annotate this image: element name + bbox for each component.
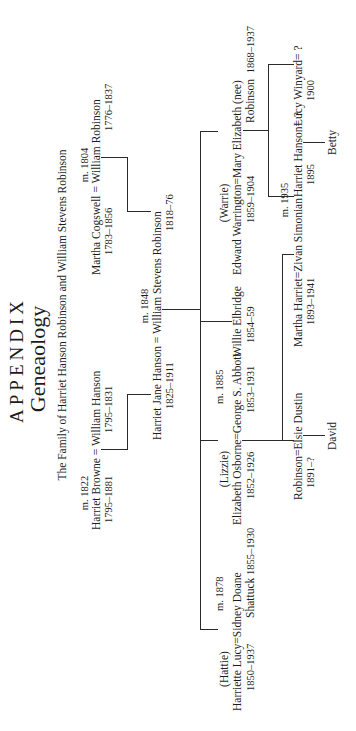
lucy-years: 1900 [305, 80, 317, 101]
betty: Betty [326, 130, 339, 155]
zivan-simonian: Zivan Simonian [292, 198, 304, 272]
william-robinson-years: 1776–1837 [103, 84, 115, 131]
warrie-descent-line [243, 130, 268, 131]
robinson-son-years: 1891–? [305, 457, 317, 488]
mary-elizabeth: Mary Elizabeth (nee) [231, 80, 243, 178]
hanson-connector-line [127, 395, 128, 450]
warrie-couple: Edward Warrington=Mary Elizabeth (nee) [231, 80, 244, 275]
william-hanson: William Hanson [90, 371, 102, 446]
edward-warrington: Edward Warrington [231, 184, 243, 275]
robinson-descent-line [101, 157, 127, 158]
warrie-nickname: (Warrie) [218, 184, 231, 223]
harriet-browne-years: 1795–1881 [103, 476, 115, 523]
sidney-doane: Sidney Doane [231, 572, 243, 637]
robinson-son: Robinson [292, 456, 304, 500]
lizzie-years: 1852–1926 [245, 452, 257, 499]
martha-marriage: m. 1935 [279, 183, 291, 217]
gen2-marriage: m. 1848 [139, 289, 151, 323]
elsie-dustin: Elsie Dustin [292, 393, 304, 450]
robinson-couple-gen4: Robinson=Elsie Dustin [292, 393, 305, 500]
harriet-jane-hanson: Harriet Jane Hanson [151, 346, 163, 440]
harriet-jane-years: 1825–1911 [164, 362, 176, 409]
genealogy-page: APPENDIX Geneaology The Family of Harrie… [0, 0, 356, 731]
robinson-to-william-line [127, 211, 151, 212]
robinson-descent-line [303, 435, 325, 436]
drop-willie [200, 321, 232, 322]
hattie-nickname: (Hattie) [218, 651, 231, 687]
family-caption: The Family of Harriet Hanson Robinson an… [56, 149, 68, 480]
hanson-to-harriet-line [127, 394, 151, 395]
hanson-descent-line [101, 449, 127, 450]
lizzie-nickname: (Lizzie) [218, 451, 231, 487]
drop-warrie [200, 131, 218, 132]
gen2-couple: Harriet Jane Hanson = William Stevens Ro… [151, 211, 164, 440]
william-hanson-years: 1795–1831 [103, 386, 115, 433]
hattie-couple: Harriette Lucy=Sidney Doane [231, 572, 244, 711]
elizabeth-osborne: Elizabeth Osborne [231, 440, 243, 525]
harriet-browne: Harriet Browne [90, 458, 102, 530]
george-abbott: George S. Abbott [231, 353, 243, 433]
warrie-children-bar [268, 64, 269, 197]
lizzie-children-bar [282, 255, 283, 441]
robinson-couple: Martha Cogswell = William Robinson [90, 99, 103, 275]
genealogy-subtitle: Geneaology [25, 306, 51, 412]
george-abbott-years: 1853–1931 [245, 366, 257, 413]
martha-couple: Martha Harriet=Zivan Simonian [292, 198, 305, 347]
willie-elbridge: Willie Elbridge [231, 286, 244, 357]
lucy-couple: Lucy Winyard= ? [292, 45, 305, 126]
david: David [326, 422, 339, 450]
lucy-winyard: Lucy Winyard [292, 60, 304, 126]
hattie-years: 1850–1937 [245, 644, 257, 691]
robinson-connector-line [127, 157, 128, 212]
martha-cogswell: Martha Cogswell [90, 195, 102, 275]
harriette-lucy: Harriette Lucy [231, 644, 243, 711]
martha-years: 1893–1941 [305, 278, 317, 325]
william-robinson: William Robinson [90, 99, 102, 183]
hattie-marriage: m. 1878 [214, 577, 226, 611]
martha-harriet: Martha Harriet [292, 278, 304, 347]
sidney-doane-line2: Shattuck 1855–1930 [244, 528, 257, 618]
martha-cogswell-years: 1783–1856 [103, 208, 115, 255]
lizzie-descent-line [242, 440, 282, 441]
drop-lizzie [200, 440, 218, 441]
willie-years: 1854–59 [245, 306, 257, 343]
lizzie-marriage: m. 1885 [214, 370, 226, 404]
william-stevens-robinson: William Stevens Robinson [151, 211, 163, 334]
hanson-couple: Harriet Browne = William Hanson [90, 371, 103, 530]
william-stevens-years: 1818–76 [164, 194, 176, 231]
drop-hattie [200, 629, 218, 630]
drop-lucy [268, 64, 294, 65]
harriet-hanson-years: 1895 [305, 164, 317, 185]
children-bar [200, 131, 201, 630]
mary-elizabeth-line2: Robinson 1868–1937 [244, 26, 257, 123]
harriet-hanson-descent-line [303, 142, 325, 143]
gen2-descent-line [162, 309, 200, 310]
harriet-hanson: Harriet Hanson [292, 126, 304, 197]
warrie-years: 1859–1904 [245, 176, 257, 223]
